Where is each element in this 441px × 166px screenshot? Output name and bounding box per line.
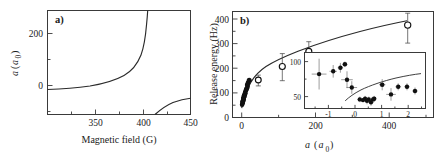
- panel-b-inset: -1 0 1 2 50 100: [290, 53, 426, 120]
- panel-b-xlabel-paren-close: ): [330, 139, 333, 151]
- panel-b-xlabel-sub: 0: [326, 145, 330, 154]
- panel-b-yticks: [233, 19, 238, 118]
- inset-xtick-0: 0: [353, 110, 357, 119]
- panel-a-frame: [48, 11, 191, 115]
- panel-a-yticks: [48, 34, 53, 112]
- inset-xtick-1: 1: [380, 110, 384, 119]
- panel-a-xtick-400: 400: [136, 118, 151, 128]
- panel-a-xtick-450: 450: [183, 118, 198, 128]
- panel-a-xtick-350: 350: [88, 118, 103, 128]
- panel-a-ylabel-a: a: [9, 71, 20, 76]
- inset-xtick-2: 2: [406, 110, 410, 119]
- panel-b-xtick-0: 0: [239, 121, 244, 131]
- panel-b-xticks: [242, 113, 426, 118]
- panel-b-ytick-0: 0: [224, 113, 229, 123]
- panel-b: -1 0 1 2 50 100 b) 0 200 400 0 100 200 3…: [208, 0, 441, 166]
- inset-xtick-n1: -1: [325, 110, 331, 119]
- panel-a-ylabel: a ( a 0 ): [9, 51, 23, 76]
- panel-a-xlabel: Magnetic field (G): [82, 134, 157, 146]
- panel-b-xtick-200: 200: [308, 121, 323, 131]
- panel-a-ytick-0: 0: [38, 81, 43, 91]
- inset-ytick-100: 100: [290, 58, 302, 67]
- panel-a: a) 350 400 450 0 200 Magnetic field (G) …: [0, 0, 210, 166]
- panel-b-ylabel: Release energy (Hz): [208, 23, 220, 104]
- panel-a-ytick-200: 200: [29, 29, 44, 39]
- panel-a-ylabel-sub-base: a: [9, 60, 20, 65]
- panel-b-xlabel-sub-base: a: [319, 139, 324, 150]
- panel-a-svg: a) 350 400 450 0 200 Magnetic field (G) …: [0, 0, 210, 166]
- inset-ytick-50: 50: [294, 93, 302, 102]
- panel-b-ytick-400: 400: [215, 15, 230, 25]
- panel-b-svg: -1 0 1 2 50 100 b) 0 200 400 0 100 200 3…: [208, 0, 441, 166]
- panel-b-label: b): [240, 15, 250, 27]
- panel-b-filled-cluster: [240, 78, 252, 107]
- panel-a-label: a): [55, 14, 64, 26]
- panel-a-xticks: [72, 110, 191, 115]
- panel-b-xlabel-paren-open: (: [314, 139, 318, 151]
- panel-a-curve-lower: [155, 98, 191, 114]
- panel-b-xlabel: a ( a 0 ): [305, 139, 333, 154]
- panel-a-ylabel-paren-close: ): [9, 51, 21, 54]
- panel-a-ylabel-sub: 0: [14, 55, 23, 59]
- figure-container: a) 350 400 450 0 200 Magnetic field (G) …: [0, 0, 441, 166]
- panel-b-xlabel-a: a: [305, 139, 310, 150]
- panel-b-xtick-400: 400: [382, 121, 397, 131]
